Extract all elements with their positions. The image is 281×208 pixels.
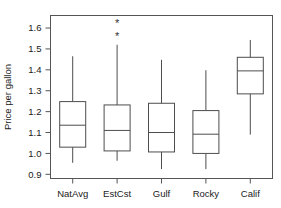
x-tick-label-rocky: Rocky (193, 188, 220, 199)
outlier-marker: * (115, 17, 120, 29)
outlier-marker: * (115, 30, 120, 42)
boxplot-canvas: 0.91.01.11.21.31.41.51.6 NatAvgEstCstGul… (0, 0, 281, 208)
plot-background (0, 0, 281, 208)
y-tick-label: 1.1 (28, 127, 41, 138)
y-axis-label: Price per gallon (2, 64, 13, 130)
boxplot-figure: 0.91.01.11.21.31.41.51.6 NatAvgEstCstGul… (0, 0, 281, 208)
y-tick-label: 1.3 (28, 85, 41, 96)
y-tick-label: 1.6 (28, 22, 41, 33)
y-tick-label: 1.4 (28, 64, 41, 75)
x-tick-label-calif: Calif (241, 188, 260, 199)
y-tick-label: 1.2 (28, 106, 41, 117)
x-tick-label-gulf: Gulf (153, 188, 171, 199)
y-tick-label: 1.5 (28, 43, 41, 54)
y-tick-label: 1.0 (28, 148, 41, 159)
x-tick-label-natavg: NatAvg (57, 188, 88, 199)
x-tick-label-estcst: EstCst (103, 188, 131, 199)
y-tick-label: 0.9 (28, 169, 41, 180)
